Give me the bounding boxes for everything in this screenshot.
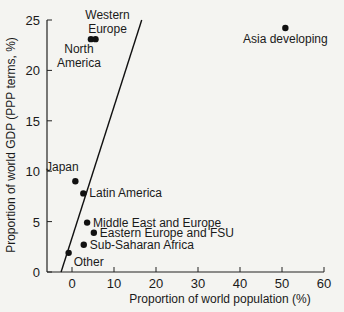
x-tick-label: 20: [149, 276, 163, 291]
point-label: NorthAmerica: [57, 42, 101, 70]
point-label: WesternEurope: [85, 8, 129, 36]
y-tick-label: 20: [26, 63, 40, 78]
y-axis-label: Proportion of world GDP (PPP terms, %): [4, 37, 18, 253]
data-points: Asia developingNorthAmericaWesternEurope…: [46, 8, 328, 269]
x-tick-label: 30: [191, 276, 205, 291]
data-point: Latin America: [80, 186, 162, 200]
y-tick-label: 25: [26, 13, 40, 28]
point-label: Other: [74, 255, 104, 269]
data-point: Japan: [46, 160, 79, 184]
x-tick-label: 50: [275, 276, 289, 291]
data-point: Sub-Saharan Africa: [81, 238, 195, 252]
point-marker: [80, 190, 86, 196]
data-point: Asia developing: [243, 25, 328, 46]
y-tick-label: 10: [26, 164, 40, 179]
data-point: Other: [65, 250, 103, 269]
point-marker: [72, 178, 78, 184]
x-tick-label: 60: [317, 276, 331, 291]
point-marker: [91, 229, 97, 235]
x-tick-label: 0: [68, 276, 75, 291]
scatter-chart: 05101520250102030405060 Asia developingN…: [0, 0, 344, 312]
point-label: Sub-Saharan Africa: [90, 238, 194, 252]
point-label: Asia developing: [243, 32, 328, 46]
y-tick-label: 0: [33, 265, 40, 280]
point-label: Japan: [46, 160, 79, 174]
x-tick-label: 40: [233, 276, 247, 291]
point-marker: [65, 250, 71, 256]
point-marker: [81, 242, 87, 248]
x-tick-label: 10: [107, 276, 121, 291]
point-label: Latin America: [89, 186, 162, 200]
point-marker: [92, 36, 98, 42]
point-marker: [282, 25, 288, 31]
y-tick-label: 5: [33, 215, 40, 230]
chart-canvas: 05101520250102030405060 Asia developingN…: [0, 0, 344, 312]
x-axis-label: Proportion of world population (%): [129, 292, 310, 306]
point-marker: [84, 219, 90, 225]
y-tick-label: 15: [26, 114, 40, 129]
